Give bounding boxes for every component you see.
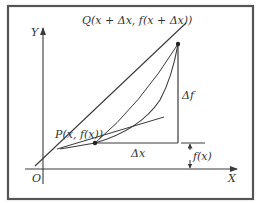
intermediate-secant [95, 44, 178, 143]
point-q-label: Q(x + Δx, f(x + Δx)) [82, 14, 192, 27]
y-axis-label: Y [31, 26, 40, 39]
fx-label: f(x) [192, 150, 212, 163]
diagram-svg: Y X O Q(x + Δx, f(x + Δx)) P(x, f(x)) Δx… [0, 0, 257, 203]
x-axis-label: X [227, 172, 237, 185]
frame-border [8, 6, 253, 199]
delta-x-label: Δx [130, 147, 146, 160]
point-q [176, 42, 180, 46]
diagram-canvas: Y X O Q(x + Δx, f(x + Δx)) P(x, f(x)) Δx… [0, 0, 257, 203]
point-p [93, 141, 97, 145]
delta-f-label: Δf [181, 89, 196, 102]
point-p-label: P(x, f(x)) [54, 128, 103, 141]
origin-label: O [32, 172, 41, 185]
